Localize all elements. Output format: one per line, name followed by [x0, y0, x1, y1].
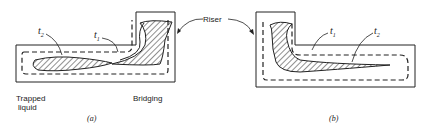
leader-riser-a	[178, 19, 203, 32]
casting-a	[16, 12, 203, 82]
trapped-liquid-label: Trapped liquid	[16, 94, 46, 112]
t2-label-b: t2	[374, 26, 380, 40]
trapped-liquid-region	[33, 57, 112, 71]
bridging-region	[112, 21, 172, 65]
leader-riser-b	[228, 19, 252, 32]
riser-label: Riser	[203, 15, 222, 24]
t1-label-b: t1	[330, 26, 336, 40]
leader-t2-b	[352, 33, 373, 62]
leader-t1-b	[312, 33, 328, 50]
bridging-label: Bridging	[133, 94, 162, 103]
caption-b: (b)	[329, 114, 338, 123]
casting-b	[228, 12, 415, 87]
t2-label-a: t2	[38, 26, 44, 40]
t1-label-a: t1	[94, 30, 100, 44]
caption-a: (a)	[87, 114, 96, 123]
